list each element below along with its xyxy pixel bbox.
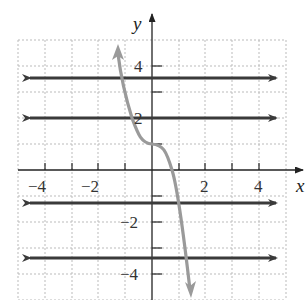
graph-figure: −4 −2 2 4 4 2 −2 −4 y x — [0, 0, 308, 300]
y-axis-label: y — [131, 13, 142, 34]
y-tick-label-4: 4 — [134, 57, 143, 76]
y-tick-label-2: 2 — [134, 109, 143, 128]
y-tick-label-neg2: −2 — [120, 213, 138, 232]
coordinate-plane: −4 −2 2 4 4 2 −2 −4 y x — [0, 0, 308, 300]
x-tick-label-neg4: −4 — [28, 177, 47, 196]
x-axis-label: x — [295, 175, 305, 196]
x-tick-label-2: 2 — [200, 177, 209, 196]
x-tick-label-neg2: −2 — [81, 177, 99, 196]
x-tick-label-4: 4 — [254, 177, 263, 196]
y-tick-label-neg4: −4 — [120, 265, 139, 284]
horizontal-lines — [30, 78, 276, 258]
